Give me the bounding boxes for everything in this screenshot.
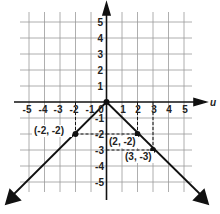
svg-text:-4: -4 xyxy=(95,161,104,172)
svg-text:-2: -2 xyxy=(95,129,104,140)
svg-text:4: 4 xyxy=(97,33,103,44)
label-3-neg3: (3, -3) xyxy=(125,151,152,162)
svg-text:-4: -4 xyxy=(39,104,48,115)
svg-text:-3: -3 xyxy=(95,145,104,156)
svg-text:3: 3 xyxy=(97,49,103,60)
svg-text:-1: -1 xyxy=(95,113,104,124)
svg-text:4: 4 xyxy=(166,104,172,115)
svg-text:3: 3 xyxy=(151,104,157,115)
u-axis-arrow-icon xyxy=(194,99,206,106)
svg-text:-2: -2 xyxy=(70,104,79,115)
svg-text:1: 1 xyxy=(97,81,103,92)
point-2-neg2 xyxy=(136,132,140,136)
right-ray-arrow-icon xyxy=(194,190,208,204)
left-ray-arrow-icon xyxy=(6,190,20,204)
label-2-neg2: (2, -2) xyxy=(109,136,136,147)
graph: -5 -4 -3 -2 -1 0 1 2 3 4 5 u 5 4 3 2 1 -… xyxy=(0,0,220,214)
svg-text:-5: -5 xyxy=(23,104,32,115)
svg-text:2: 2 xyxy=(97,65,103,76)
svg-text:2: 2 xyxy=(135,104,141,115)
label-neg2-neg2: (-2, -2) xyxy=(34,125,64,136)
svg-text:5: 5 xyxy=(182,104,188,115)
v-axis-arrow-icon xyxy=(103,3,110,15)
x-tick-labels: -5 -4 -3 -2 -1 0 1 2 3 4 5 xyxy=(23,104,189,115)
svg-text:-5: -5 xyxy=(95,177,104,188)
point-neg2-neg2 xyxy=(74,132,78,136)
svg-text:5: 5 xyxy=(97,17,103,28)
u-axis-label: u xyxy=(210,97,216,108)
svg-text:-3: -3 xyxy=(54,104,63,115)
svg-text:-1: -1 xyxy=(86,104,95,115)
svg-text:1: 1 xyxy=(120,104,126,115)
